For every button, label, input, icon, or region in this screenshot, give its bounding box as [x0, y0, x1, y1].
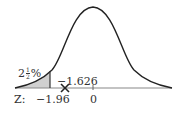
- tail-percent-label: 212%: [18, 67, 41, 80]
- z-axis-label: Z:: [14, 94, 25, 105]
- tail-pct-fraction: 12: [26, 67, 30, 80]
- tail-pct-whole: 2: [18, 67, 25, 80]
- tail-pct-sign: %: [31, 67, 41, 80]
- tick-label-neg196: −1.96: [36, 94, 70, 105]
- marker-value-label: −1.626: [57, 76, 98, 87]
- frac-den: 2: [26, 73, 30, 80]
- tick-label-zero: 0: [90, 94, 97, 105]
